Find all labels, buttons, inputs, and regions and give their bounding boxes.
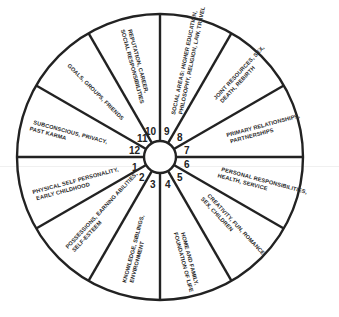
house-number-9: 9: [164, 126, 170, 137]
house-3-text: KNOWLEDGE, SIBLINGS, ENVIRONMENT: [121, 214, 152, 285]
house-number-3: 3: [150, 179, 156, 190]
house-number-12: 12: [129, 145, 141, 156]
house-number-4: 4: [165, 179, 171, 190]
house-number-5: 5: [177, 172, 183, 183]
house-11-text: GOALS, GROUPS, FRIENDS: [66, 62, 125, 121]
house-5-text: CREATIVITY, FUN, ROMANCE, SEX, CHILDREN: [200, 191, 268, 262]
house-number-11: 11: [137, 133, 148, 144]
house-number-6: 6: [184, 159, 190, 170]
house-7-text: PRIMARY RELATIONSHIPS, PARTNERSHIPS: [226, 112, 303, 144]
houses-wheel: 1 2 3 4 5 6 7 8 9 10 11 12 PHYSICAL SELF…: [0, 0, 339, 317]
house-10-text: REPUTATION, CAREER, SOCIAL RESPONSIBILIT…: [120, 27, 152, 105]
house-number-7: 7: [184, 145, 190, 156]
divider-4-5: [168, 171, 232, 281]
center-hub: [144, 141, 176, 173]
house-number-8: 8: [177, 132, 183, 143]
svg-text:GOALS, GROUPS, FRIENDS: GOALS, GROUPS, FRIENDS: [66, 62, 125, 121]
house-9-text: SOCIAL AREAS: HIGHER EDUCATION, PHILOSOP…: [170, 4, 206, 117]
house-number-2: 2: [139, 172, 145, 183]
house-1-text: PHYSICAL SELF PERSONALITY, EARLY CHILDHO…: [32, 166, 122, 202]
house-6-text: PERSONAL RESPONSIBILITIES, HEALTH, SERVI…: [217, 166, 308, 202]
house-4-text: HOME AND FAMILY, FOUNDATION OF LIFE: [173, 230, 202, 293]
house-12-text: SUBCONSCIOUS, PRIVACY, PAST KARMA: [29, 119, 108, 152]
